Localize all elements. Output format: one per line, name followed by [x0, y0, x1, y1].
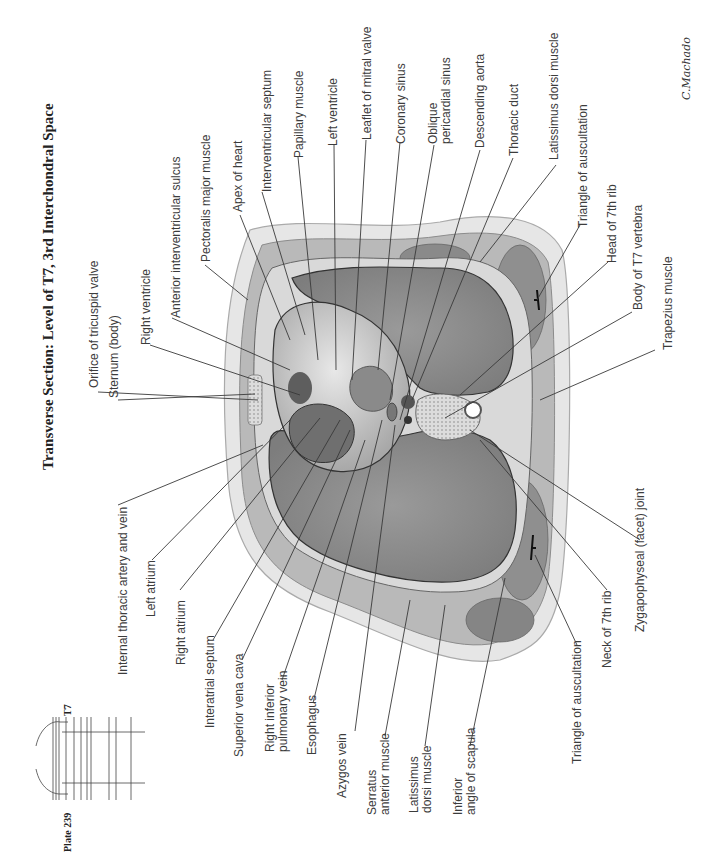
label-zygapophyseal-joint: Zygapophyseal (facet) joint	[634, 488, 647, 632]
label-line-2: angle of scapula	[465, 728, 478, 815]
label-internal-thoracic-artery-vein: Internal thoracic artery and vein	[117, 507, 130, 675]
label-interventricular-septum: Interventricular septum	[261, 70, 274, 192]
label-latissimus-dorsi-bottom: Latissimus dorsi muscle	[408, 746, 434, 813]
label-descending-aorta: Descending aorta	[474, 54, 487, 148]
label-line-2: pericardial sinus	[440, 57, 453, 144]
label-pectoralis-major: Pectoralis major muscle	[200, 135, 213, 262]
label-head-7th-rib: Head of 7th rib	[606, 184, 619, 263]
label-esophagus: Esophagus	[306, 695, 319, 755]
label-right-inferior-pulmonary-vein: Right inferior pulmonary vein	[264, 671, 290, 752]
right-atrium	[289, 404, 354, 463]
label-coronary-sinus: Coronary sinus	[395, 63, 408, 144]
label-triangle-auscultation-bottom: Triangle of auscultation	[571, 640, 584, 764]
plate-title: Transverse Section: Level of T7, 3rd Int…	[40, 103, 57, 470]
label-triangle-auscultation-top: Triangle of auscultation	[577, 104, 590, 228]
label-oblique-pericardial-sinus: Oblique pericardial sinus	[427, 57, 453, 144]
label-azygos-vein: Azygos vein	[336, 733, 349, 798]
label-right-atrium: Right atrium	[175, 600, 188, 665]
label-leaflet-mitral-valve: Leaflet of mitral valve	[361, 27, 374, 140]
label-apex-of-heart: Apex of heart	[232, 141, 245, 212]
label-inferior-angle-scapula: Inferior angle of scapula	[452, 728, 478, 815]
artist-signature: C.Machado	[680, 37, 693, 100]
label-sternum-body: Sternum (body)	[108, 315, 121, 398]
label-papillary-muscle: Papillary muscle	[293, 71, 306, 158]
label-line-2: dorsi muscle	[421, 746, 434, 813]
label-right-ventricle: Right ventricle	[140, 269, 153, 345]
label-left-ventricle: Left ventricle	[327, 78, 340, 146]
label-body-t7-vertebra: Body of T7 vertebra	[632, 205, 645, 310]
spinal-canal	[465, 402, 481, 418]
label-trapezius-muscle: Trapezius muscle	[662, 256, 675, 350]
level-marker: T7	[62, 704, 73, 716]
label-interatrial-septum: Interatrial septum	[204, 635, 217, 728]
label-left-atrium: Left atrium	[145, 560, 158, 617]
label-superior-vena-cava: Superior vena cava	[233, 654, 246, 757]
label-line-2: pulmonary vein	[277, 671, 290, 752]
esophagus	[387, 403, 397, 421]
label-thoracic-duct: Thoracic duct	[508, 84, 521, 156]
label-latissimus-dorsi-top: Latissimus dorsi muscle	[548, 33, 561, 160]
label-serratus-anterior: Serratus anterior muscle	[366, 733, 392, 815]
label-anterior-interventricular-sulcus: Anterior interventricular sulcus	[170, 157, 183, 318]
label-orifice-tricuspid-valve: Orifice of tricuspid valve	[88, 261, 101, 388]
label-line-2: anterior muscle	[379, 733, 392, 815]
label-neck-7th-rib: Neck of 7th rib	[601, 591, 614, 668]
azygos	[404, 416, 412, 424]
plate-number: Plate 239	[62, 813, 73, 852]
level-diagram	[36, 717, 145, 800]
